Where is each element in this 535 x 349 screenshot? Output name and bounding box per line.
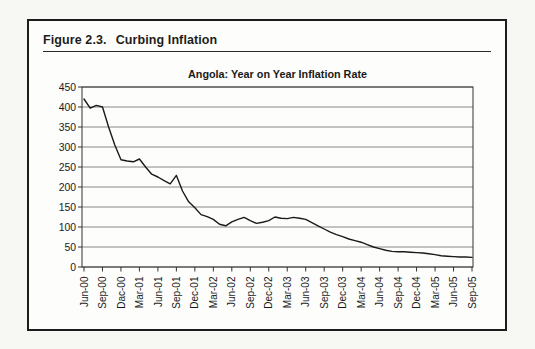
y-axis-label-300: 300 — [59, 142, 77, 153]
x-axis-label-Dec-01: Dec-01 — [189, 276, 200, 309]
x-axis-label-Mar-05: Mar-05 — [430, 276, 441, 308]
y-axis-label-50: 50 — [64, 242, 76, 253]
y-axis-label-350: 350 — [59, 122, 77, 133]
x-axis-label-Jun-00: Jun-00 — [79, 276, 90, 307]
x-axis-label-Mar-04: Mar-04 — [356, 276, 367, 308]
inflation-line-chart: Angola: Year on Year Inflation Rate 4504… — [0, 0, 535, 349]
x-axis-label-Mar-01: Mar-01 — [134, 276, 145, 308]
x-axis-label-Jun-02: Jun-02 — [226, 276, 237, 307]
scanned-document-page: { "figure": { "label": "Figure 2.3.", "t… — [0, 0, 535, 349]
y-axis-label-450: 450 — [59, 82, 77, 93]
x-axis-label-Sep-05: Sep-05 — [467, 276, 478, 309]
x-axis-label-Jun-05: Jun-05 — [448, 276, 459, 307]
x-axis-label-Sep-01: Sep-01 — [171, 276, 182, 309]
x-axis-label-Jun-03: Jun-03 — [300, 276, 311, 307]
y-axis-label-400: 400 — [59, 102, 77, 113]
x-axis-label-Mar-03: Mar-03 — [282, 276, 293, 308]
y-axis-label-250: 250 — [59, 162, 77, 173]
x-axis-label-Sep-02: Sep-02 — [245, 276, 256, 309]
x-axis-label-Dac-00: Dac-00 — [116, 276, 127, 309]
y-axis-label-200: 200 — [59, 182, 77, 193]
y-axis-label-0: 0 — [70, 262, 76, 273]
x-axis-label-Sep-04: Sep-04 — [393, 276, 404, 309]
plot-area: 450400350300250200150100500Jun-00Sep-00D… — [59, 82, 478, 309]
plot-border — [82, 87, 473, 267]
y-axis-label-100: 100 — [59, 222, 77, 233]
x-axis-label-Sep-03: Sep-03 — [319, 276, 330, 309]
x-axis-label-Dec-02: Dec-02 — [263, 276, 274, 309]
x-axis-label-Jun-01: Jun-01 — [153, 276, 164, 307]
x-axis-label-Jun-04: Jun-04 — [374, 276, 385, 307]
y-axis-label-150: 150 — [59, 202, 77, 213]
x-axis-label-Dec-04: Dec-04 — [411, 276, 422, 309]
x-axis-label-Sep-00: Sep-00 — [97, 276, 108, 309]
inflation-rate-line — [84, 99, 472, 257]
chart-title: Angola: Year on Year Inflation Rate — [188, 68, 367, 80]
x-axis-label-Mar-02: Mar-02 — [208, 276, 219, 308]
x-axis-label-Dec-03: Dec-03 — [337, 276, 348, 309]
